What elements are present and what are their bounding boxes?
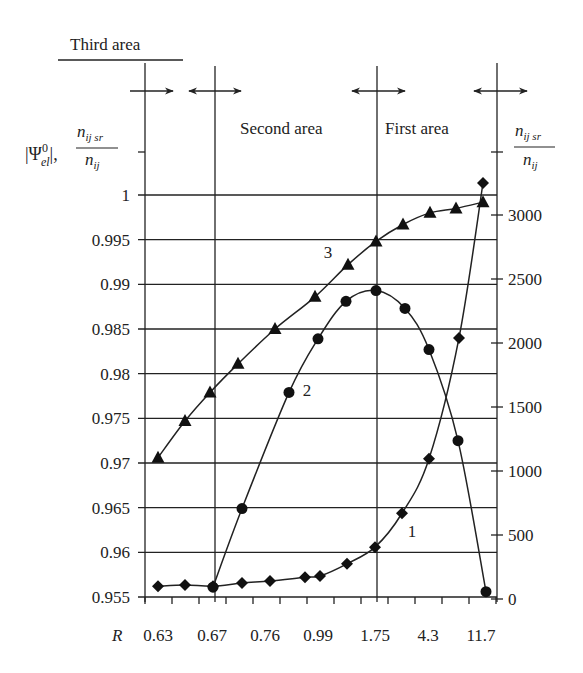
diamond-marker [341, 558, 353, 570]
grid-lines [138, 195, 497, 597]
circle-marker [313, 333, 324, 344]
series-2 [208, 285, 492, 597]
circle-marker [424, 344, 435, 355]
svg-text:nij sr: nij sr [77, 122, 104, 143]
right-tick-label: 0 [508, 590, 517, 609]
circle-marker [341, 296, 352, 307]
x-tick-label: 4.3 [417, 626, 438, 645]
triangle-marker [342, 258, 355, 270]
left-tick-label: 0.97 [100, 454, 130, 473]
svg-text:nij sr: nij sr [515, 121, 542, 142]
right-tick-label: 1000 [508, 462, 542, 481]
region-markers [58, 60, 527, 91]
first-area-label: First area [385, 119, 449, 138]
left-tick-label: 0.975 [92, 409, 130, 428]
triangle-marker [309, 290, 322, 302]
curve-label: 1 [408, 522, 417, 541]
x-tick-label: 11.7 [466, 626, 496, 645]
right-tick-label: 500 [508, 526, 534, 545]
diamond-marker [299, 571, 311, 583]
right-tick-label: 2500 [508, 270, 542, 289]
diamond-marker [264, 575, 276, 587]
left-axis-title: |Ψ0el|, nij sr nij [25, 122, 118, 171]
diamond-marker [179, 579, 191, 591]
diamond-marker [453, 332, 465, 344]
diamond-marker [236, 577, 248, 589]
curve-label: 3 [324, 243, 333, 262]
left-tick-label: 0.96 [100, 543, 130, 562]
circle-marker [481, 586, 492, 597]
circle-marker [400, 303, 411, 314]
triangle-marker [397, 217, 410, 229]
triangle-marker [269, 322, 282, 334]
svg-text:|Ψ0el|,: |Ψ0el|, [25, 141, 58, 169]
diamond-marker [477, 177, 489, 189]
chart: Third area Second area First area R |Ψ0e… [0, 0, 583, 673]
left-tick-label: 0.99 [100, 275, 130, 294]
diamond-marker [152, 580, 164, 592]
right-tick-label: 3000 [508, 206, 542, 225]
third-area-label: Third area [70, 35, 141, 54]
left-tick-label: 0.965 [92, 499, 130, 518]
left-tick-label: 1 [122, 186, 131, 205]
curve-label: 2 [303, 381, 312, 400]
x-tick-label: 1.75 [360, 626, 390, 645]
circle-marker [237, 503, 248, 514]
circle-marker [371, 285, 382, 296]
x-tick-label: 0.99 [303, 626, 333, 645]
x-axis-variable: R [111, 626, 123, 645]
triangle-marker [370, 234, 383, 246]
diamond-marker [314, 570, 326, 582]
circle-marker [208, 582, 219, 593]
text-labels: Third area Second area First area R |Ψ0e… [25, 35, 555, 645]
right-axis-title: nij sr nij [514, 121, 555, 171]
left-tick-label: 0.995 [92, 231, 130, 250]
x-tick-label: 0.76 [250, 626, 280, 645]
circle-marker [453, 435, 464, 446]
diamond-marker [396, 507, 408, 519]
circle-marker [284, 387, 295, 398]
left-tick-label: 0.955 [92, 588, 130, 607]
second-area-label: Second area [240, 119, 323, 138]
right-tick-label: 2000 [508, 334, 542, 353]
x-tick-label: 0.67 [197, 626, 227, 645]
right-tick-label: 1500 [508, 398, 542, 417]
left-tick-label: 0.98 [100, 365, 130, 384]
svg-text:nij: nij [85, 150, 100, 171]
triangle-marker [477, 195, 490, 207]
svg-text:nij: nij [523, 150, 538, 171]
x-tick-label: 0.63 [143, 626, 173, 645]
left-tick-label: 0.985 [92, 320, 130, 339]
